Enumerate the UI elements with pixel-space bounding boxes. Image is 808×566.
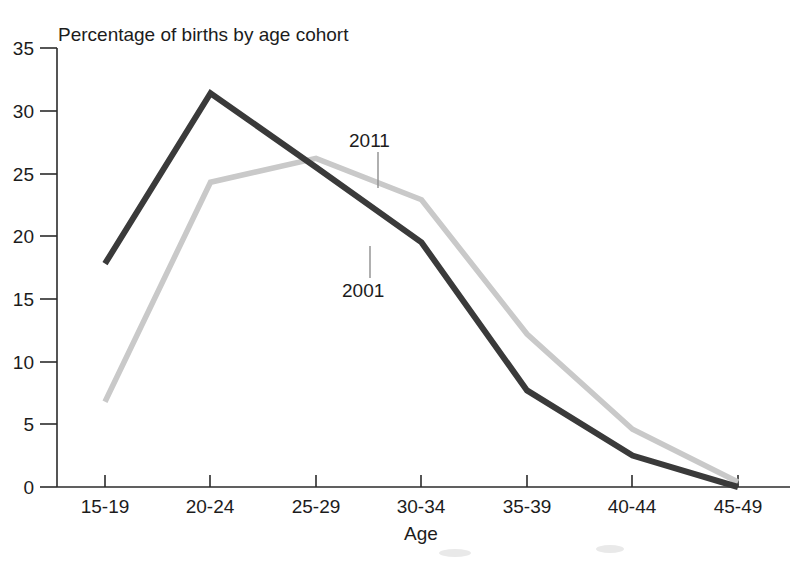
y-tick-label-10: 10 [13, 352, 34, 373]
line-chart: Percentage of births by age cohort 0 5 1… [0, 0, 808, 566]
x-axis-ticks [105, 475, 738, 487]
y-tick-label-35: 35 [13, 38, 34, 59]
x-tick-label-5: 40-44 [608, 496, 657, 517]
x-axis-title: Age [404, 523, 438, 544]
x-tick-label-2: 25-29 [292, 496, 341, 517]
series-annotation-2011: 2011 [349, 130, 390, 151]
y-tick-label-5: 5 [23, 414, 34, 435]
x-tick-label-4: 35-39 [503, 496, 552, 517]
series-annotation-2001: 2001 [342, 280, 384, 301]
series-line-2001 [105, 93, 738, 487]
y-axis-tick-labels: 0 5 10 15 20 25 30 35 [13, 38, 34, 498]
x-tick-label-0: 15-19 [81, 496, 130, 517]
y-tick-label-20: 20 [13, 226, 34, 247]
y-axis-ticks [40, 48, 57, 487]
x-tick-label-3: 30-34 [397, 496, 446, 517]
y-tick-label-15: 15 [13, 289, 34, 310]
y-tick-label-30: 30 [13, 101, 34, 122]
chart-figure: Percentage of births by age cohort 0 5 1… [0, 0, 808, 566]
series-line-2011 [105, 158, 738, 482]
scan-artifact-left [439, 549, 471, 557]
x-tick-label-6: 45-49 [714, 496, 763, 517]
y-tick-label-0: 0 [23, 477, 34, 498]
x-tick-label-1: 20-24 [186, 496, 235, 517]
y-tick-label-25: 25 [13, 164, 34, 185]
scan-artifact-right [596, 545, 624, 553]
x-axis-tick-labels: 15-19 20-24 25-29 30-34 35-39 40-44 45-4… [81, 496, 763, 517]
chart-title: Percentage of births by age cohort [58, 24, 349, 45]
